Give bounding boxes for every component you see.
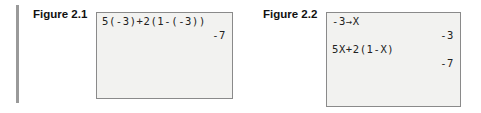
screen-line-result: -7	[212, 29, 226, 41]
figure-2-1-label: Figure 2.1	[33, 8, 87, 20]
screen-line-store: -3→X	[332, 15, 360, 27]
screen-line-expression: 5X+2(1-X)	[332, 43, 394, 55]
calculator-screen-figure-2-2: -3→X -3 5X+2(1-X) -7	[326, 12, 461, 107]
screen-line-expression: 5(-3)+2(1-(-3))	[102, 15, 206, 27]
screen-line-store-result: -3	[440, 29, 454, 41]
screen-line-result: -7	[440, 57, 454, 69]
figure-2-2-label: Figure 2.2	[263, 8, 317, 20]
calculator-screen-figure-2-1: 5(-3)+2(1-(-3)) -7	[96, 12, 233, 99]
margin-rule	[16, 5, 19, 103]
